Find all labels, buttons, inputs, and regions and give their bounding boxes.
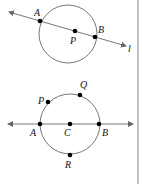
label-q: Q xyxy=(80,79,88,90)
figure-1: A P B l xyxy=(9,5,131,63)
label-a: A xyxy=(33,7,41,18)
point-p2 xyxy=(46,100,51,105)
label-b2: B xyxy=(102,127,108,138)
label-p: P xyxy=(69,35,76,46)
line-l xyxy=(40,21,126,46)
label-r: R xyxy=(64,159,71,170)
label-a2: A xyxy=(29,127,37,138)
point-p xyxy=(73,29,78,34)
label-b: B xyxy=(98,24,104,35)
label-l: l xyxy=(128,43,131,54)
label-c: C xyxy=(64,127,71,138)
circle-1 xyxy=(39,5,97,63)
point-a2 xyxy=(38,122,43,127)
label-p2: P xyxy=(37,95,44,106)
geometry-figures: A P B l P Q A C B R xyxy=(0,0,142,184)
point-b xyxy=(93,35,98,40)
point-r xyxy=(68,153,73,158)
point-q xyxy=(78,93,83,98)
point-a xyxy=(38,19,43,24)
point-c xyxy=(68,122,73,127)
point-b2 xyxy=(97,122,102,127)
figure-2: P Q A C B R xyxy=(8,79,133,170)
